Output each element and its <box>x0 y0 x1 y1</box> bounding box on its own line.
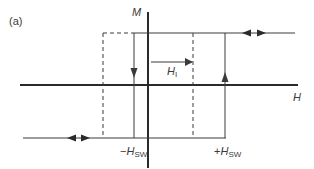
pos-switching-field-label: +HSW <box>214 146 241 159</box>
neg-switching-subscript: SW <box>134 150 147 159</box>
top-right-arrow-icon <box>257 30 266 37</box>
m-axis-label: M <box>132 7 141 18</box>
top-left-arrow-icon <box>242 30 251 37</box>
down-arrow-icon <box>131 68 138 78</box>
bottom-right-arrow-icon <box>81 135 90 142</box>
internal-field-symbol: H <box>167 65 175 77</box>
internal-field-label: HI <box>167 66 177 79</box>
up-arrow-icon <box>222 72 229 82</box>
hysteresis-diagram: (a) M H HI −HSW +HSW <box>0 0 314 169</box>
internal-field-subscript: I <box>175 70 177 79</box>
panel-label: (a) <box>9 16 22 27</box>
hysteresis-loop-graphic <box>0 0 314 169</box>
h-axis-label: H <box>293 92 301 103</box>
neg-switching-field-label: −HSW <box>120 146 147 159</box>
bottom-left-arrow-icon <box>67 135 76 142</box>
pos-switching-subscript: SW <box>228 150 241 159</box>
